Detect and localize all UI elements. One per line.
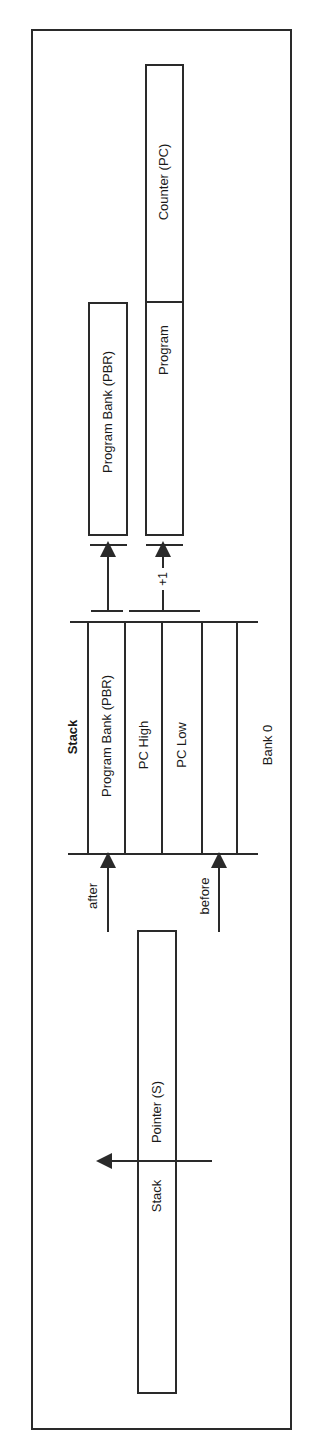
bank-label: Bank 0 [261, 715, 275, 775]
before-label: before [198, 866, 212, 926]
stack-pointer-register [137, 930, 177, 1394]
stack-cell-pc-low: PC Low [175, 705, 189, 785]
increment-label: +1 [156, 566, 170, 592]
stack-title: Stack [66, 712, 80, 762]
stack-pointer-label-left: Stack [150, 1166, 164, 1226]
after-label: after [86, 871, 100, 921]
stack-cell-pc-high: PC High [137, 705, 151, 785]
stack-pointer-label-right: Pointer (S) [150, 1062, 164, 1162]
stack-cell-pbr: Program Bank (PBR) [100, 677, 114, 797]
stack-cell-empty [213, 705, 227, 785]
